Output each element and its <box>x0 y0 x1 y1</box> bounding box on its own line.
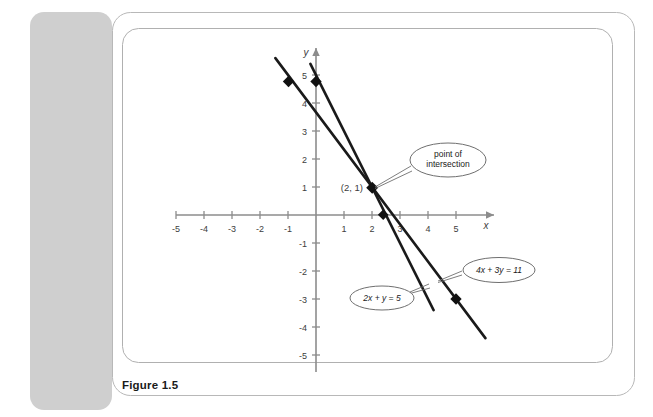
y-tick-label: -2 <box>299 267 307 277</box>
y-tick-label: -1 <box>299 239 307 249</box>
x-tick-label: -5 <box>172 224 180 234</box>
y-tick-label: 2 <box>302 155 307 165</box>
page-chrome <box>30 0 653 417</box>
x-tick-label: 5 <box>453 224 458 234</box>
callout-equation-text: 2x + y = 5 <box>362 293 401 303</box>
x-tick-label: 2 <box>369 224 374 234</box>
y-tick-label: -3 <box>299 295 307 305</box>
y-tick-label: 1 <box>302 183 307 193</box>
callout-equation-text: 4x + 3y = 11 <box>476 265 522 275</box>
sidebar-band <box>30 12 112 410</box>
figure-canvas: -5 -4 -3 -2 -1 1 2 3 4 5 5 4 3 2 1 -1 -2… <box>0 0 653 417</box>
x-tick-label: 4 <box>425 224 430 234</box>
figure-frame <box>123 29 613 363</box>
x-axis-label: x <box>483 220 490 231</box>
y-tick-label: -5 <box>299 351 307 361</box>
x-tick-label: -2 <box>256 224 264 234</box>
y-axis-label: y <box>303 47 310 58</box>
figure-page: Practice Problem <box>0 0 653 417</box>
x-tick-label: 1 <box>341 224 346 234</box>
y-tick-label: 3 <box>302 127 307 137</box>
x-tick-label: -3 <box>228 224 236 234</box>
callout-text-line1: point of <box>434 149 463 159</box>
figure-caption: Figure 1.5 <box>122 379 178 391</box>
intersection-coordinate-label: (2, 1) <box>341 182 363 193</box>
y-tick-label: -4 <box>299 323 307 333</box>
x-tick-label: -4 <box>200 224 208 234</box>
y-tick-label: 5 <box>302 71 307 81</box>
callout-text-line2: intersection <box>426 159 470 169</box>
x-tick-label: -1 <box>284 224 292 234</box>
